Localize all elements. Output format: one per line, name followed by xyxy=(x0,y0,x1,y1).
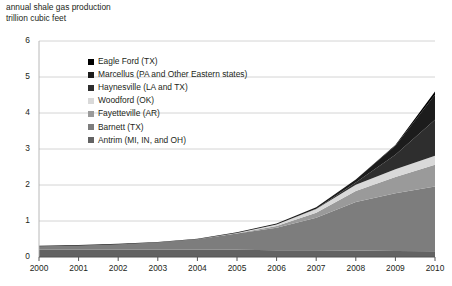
legend-swatch-icon xyxy=(88,59,94,65)
chart-legend: Eagle Ford (TX)Marcellus (PA and Other E… xyxy=(88,55,247,147)
legend-swatch-icon xyxy=(88,98,94,104)
x-axis-tick-label: 2003 xyxy=(141,263,175,273)
legend-item: Marcellus (PA and Other Eastern states) xyxy=(88,68,247,81)
y-axis-tick-label: 2 xyxy=(8,179,30,189)
x-axis-tick-label: 2009 xyxy=(378,263,412,273)
legend-label: Haynesville (LA and TX) xyxy=(98,83,188,92)
x-axis-tick-label: 2006 xyxy=(260,263,294,273)
y-axis-tick-label: 3 xyxy=(8,143,30,153)
x-axis-tick-label: 2004 xyxy=(180,263,214,273)
x-axis-tick-label: 2002 xyxy=(101,263,135,273)
legend-item: Antrim (MI, IN, and OH) xyxy=(88,134,247,147)
legend-swatch-icon xyxy=(88,124,94,130)
legend-label: Barnett (TX) xyxy=(98,123,144,132)
x-axis-tick-label: 2001 xyxy=(62,263,96,273)
legend-item: Haynesville (LA and TX) xyxy=(88,81,247,94)
x-axis-tick-label: 2000 xyxy=(22,263,56,273)
legend-swatch-icon xyxy=(88,137,94,143)
y-axis-tick-label: 1 xyxy=(8,215,30,225)
legend-swatch-icon xyxy=(88,85,94,91)
x-axis-tick-label: 2007 xyxy=(299,263,333,273)
area-band xyxy=(39,250,435,257)
legend-label: Antrim (MI, IN, and OH) xyxy=(98,136,186,145)
x-axis-tick-label: 2010 xyxy=(418,263,452,273)
legend-item: Barnett (TX) xyxy=(88,120,247,133)
legend-swatch-icon xyxy=(88,72,94,78)
x-axis-tick-label: 2008 xyxy=(339,263,373,273)
y-axis-tick-label: 4 xyxy=(8,107,30,117)
legend-label: Marcellus (PA and Other Eastern states) xyxy=(98,70,247,79)
legend-item: Fayetteville (AR) xyxy=(88,107,247,120)
y-axis-tick-label: 0 xyxy=(8,251,30,261)
legend-label: Eagle Ford (TX) xyxy=(98,57,158,66)
y-axis-tick-label: 6 xyxy=(8,35,30,45)
legend-label: Fayetteville (AR) xyxy=(98,109,160,118)
axis-ticks xyxy=(39,257,435,261)
legend-swatch-icon xyxy=(88,111,94,117)
x-axis-tick-label: 2005 xyxy=(220,263,254,273)
y-axis-tick-label: 5 xyxy=(8,71,30,81)
legend-label: Woodford (OK) xyxy=(98,96,154,105)
legend-item: Eagle Ford (TX) xyxy=(88,55,247,68)
chart-page: annual shale gas production trillion cub… xyxy=(0,0,452,286)
legend-item: Woodford (OK) xyxy=(88,94,247,107)
